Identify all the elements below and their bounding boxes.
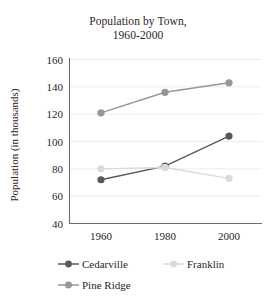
y-tick-label: 120 bbox=[47, 108, 64, 120]
series-pine-ridge bbox=[97, 79, 232, 116]
legend-item-franklin[interactable]: Franklin bbox=[163, 258, 225, 270]
series-line bbox=[101, 136, 229, 180]
chart-legend: CedarvilleFranklinPine Ridge bbox=[58, 258, 225, 291]
y-axis-tick-labels: 406080100120140160 bbox=[47, 54, 64, 230]
legend-marker-icon bbox=[170, 261, 177, 268]
series-franklin bbox=[97, 164, 232, 182]
x-tick-label: 1960 bbox=[90, 230, 113, 242]
data-point bbox=[97, 109, 104, 116]
data-point bbox=[225, 79, 232, 86]
data-point bbox=[225, 175, 232, 182]
data-point bbox=[97, 165, 104, 172]
population-line-chart: Population by Town, 1960-2000 4060801001… bbox=[0, 0, 276, 305]
legend-label: Franklin bbox=[187, 258, 225, 270]
x-tick-label: 2000 bbox=[218, 230, 241, 242]
y-tick-label: 160 bbox=[47, 54, 64, 66]
legend-marker-icon bbox=[65, 282, 72, 289]
series-layer bbox=[97, 79, 232, 183]
y-tick-label: 140 bbox=[47, 81, 64, 93]
x-axis-tick-labels: 196019802000 bbox=[90, 230, 241, 242]
legend-marker-icon bbox=[65, 261, 72, 268]
legend-item-cedarville[interactable]: Cedarville bbox=[58, 258, 128, 270]
y-gridlines bbox=[70, 60, 263, 224]
legend-label: Pine Ridge bbox=[82, 279, 131, 291]
y-tick-label: 60 bbox=[52, 190, 64, 202]
chart-canvas: 406080100120140160 196019802000 Populati… bbox=[0, 0, 276, 305]
x-tick-label: 1980 bbox=[154, 230, 177, 242]
legend-item-pine-ridge[interactable]: Pine Ridge bbox=[58, 279, 131, 291]
legend-label: Cedarville bbox=[82, 258, 128, 270]
data-point bbox=[225, 132, 232, 139]
data-point bbox=[97, 176, 104, 183]
data-point bbox=[161, 89, 168, 96]
data-point bbox=[161, 164, 168, 171]
y-tick-label: 40 bbox=[52, 218, 64, 230]
y-tick-label: 80 bbox=[52, 163, 64, 175]
y-axis-title: Population (in thousands) bbox=[8, 88, 21, 201]
y-tick-label: 100 bbox=[47, 136, 64, 148]
